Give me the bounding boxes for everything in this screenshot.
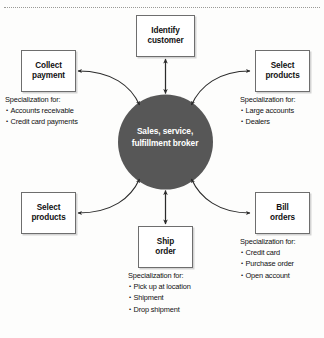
figure-canvas: Sales, service, fulfillment broker Ident…	[0, 0, 324, 338]
node-collect-payment-line1: Collect	[35, 61, 62, 72]
node-select-products-bottom-left[interactable]: Select products	[21, 192, 76, 234]
spec-ship-order-item-0: Pick up at location	[128, 281, 191, 292]
node-select-products-bottom-left-line2: products	[31, 213, 65, 224]
node-ship-order-line1: Ship	[157, 237, 174, 248]
spec-select-products-top-right: Specialization for: Large accounts Deale…	[240, 95, 296, 128]
spec-select-products-top-right-item-1: Dealers	[240, 116, 296, 127]
spec-ship-order-item-2: Drop shipment	[128, 304, 191, 315]
spec-ship-order-heading: Specialization for:	[128, 271, 191, 281]
connector-bill-orders	[192, 179, 251, 213]
spec-ship-order: Specialization for: Pick up at location …	[128, 271, 191, 315]
spec-select-products-top-right-item-0: Large accounts	[240, 105, 296, 116]
node-identify-customer[interactable]: Identify customer	[136, 15, 195, 57]
spec-ship-order-item-1: Shipment	[128, 292, 191, 303]
node-collect-payment[interactable]: Collect payment	[21, 50, 76, 92]
spec-bill-orders-item-0: Credit card	[240, 247, 296, 258]
node-ship-order[interactable]: Ship order	[138, 226, 193, 268]
spec-bill-orders: Specialization for: Credit card Purchase…	[240, 237, 296, 281]
hub-circle	[118, 95, 213, 190]
connector-collect-payment	[78, 71, 140, 105]
spec-collect-payment: Specialization for: Accounts receivable …	[5, 95, 78, 128]
node-identify-customer-line1: Identify	[151, 26, 179, 37]
node-bill-orders[interactable]: Bill orders	[255, 192, 310, 234]
node-select-products-top-right-line2: products	[265, 71, 299, 82]
spec-bill-orders-heading: Specialization for:	[240, 237, 296, 247]
spec-collect-payment-item-1: Credit card payments	[5, 116, 78, 127]
spec-collect-payment-heading: Specialization for:	[5, 95, 78, 105]
node-identify-customer-line2: customer	[147, 36, 183, 47]
node-collect-payment-line2: payment	[32, 71, 65, 82]
spec-bill-orders-item-2: Open account	[240, 270, 296, 281]
node-bill-orders-line1: Bill	[276, 203, 288, 214]
node-bill-orders-line2: orders	[270, 213, 295, 224]
connector-select-products-bottom-left	[78, 179, 140, 213]
spec-collect-payment-item-0: Accounts receivable	[5, 105, 78, 116]
node-select-products-top-right[interactable]: Select products	[255, 50, 310, 92]
spec-bill-orders-item-1: Purchase order	[240, 258, 296, 269]
spec-select-products-top-right-heading: Specialization for:	[240, 95, 296, 105]
node-select-products-bottom-left-line1: Select	[37, 203, 61, 214]
node-ship-order-line2: order	[155, 247, 175, 258]
node-select-products-top-right-line1: Select	[271, 61, 295, 72]
